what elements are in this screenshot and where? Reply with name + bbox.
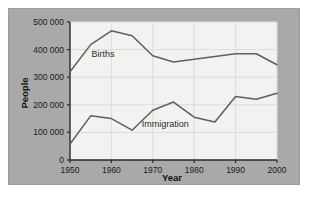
y-axis-title: People bbox=[19, 77, 30, 108]
y-axis-tick-label: 400 000 bbox=[33, 45, 64, 55]
x-axis-tick-label: 1970 bbox=[143, 165, 162, 175]
series-label-births: Births bbox=[92, 49, 116, 59]
x-axis-tick-label: 2000 bbox=[268, 165, 287, 175]
y-axis-tick-label: 200 000 bbox=[33, 100, 64, 110]
series-label-immigration: Immigration bbox=[142, 119, 189, 129]
y-axis-tick-labels: 0100 000200 000300 000400 000500 000 bbox=[33, 17, 64, 165]
x-axis-tick-label: 1990 bbox=[226, 165, 245, 175]
y-axis-tick-label: 300 000 bbox=[33, 72, 64, 82]
chart-figure: 0100 000200 000300 000400 000500 000 195… bbox=[0, 0, 309, 201]
plot-area-background bbox=[70, 22, 277, 160]
x-axis-tick-label: 1980 bbox=[185, 165, 204, 175]
x-axis-tick-label: 1960 bbox=[102, 165, 121, 175]
y-axis-tick-label: 500 000 bbox=[33, 17, 64, 27]
x-axis-title: Year bbox=[162, 172, 182, 183]
x-axis-tick-label: 1950 bbox=[61, 165, 80, 175]
y-axis-tick-label: 100 000 bbox=[33, 127, 64, 137]
line-chart: 0100 000200 000300 000400 000500 000 195… bbox=[0, 0, 309, 201]
y-axis-tick-label: 0 bbox=[59, 155, 64, 165]
